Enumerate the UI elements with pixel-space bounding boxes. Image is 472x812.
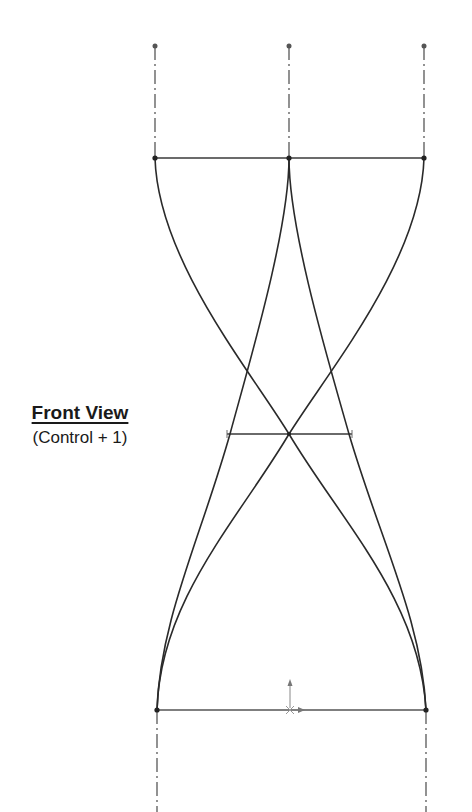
vertex-dot[interactable] (421, 155, 426, 160)
vertex-dot[interactable] (423, 707, 428, 712)
vertex-dot[interactable] (286, 155, 291, 160)
top-endpoints (153, 44, 427, 49)
origin-icon (286, 679, 305, 714)
endpoint-dot[interactable] (422, 44, 427, 49)
vertex-dot[interactable] (152, 155, 157, 160)
sketch-canvas[interactable] (0, 0, 472, 812)
endpoint-dot[interactable] (153, 44, 158, 49)
vertex-dot[interactable] (287, 432, 291, 436)
vertices (152, 155, 428, 712)
endpoint-dot[interactable] (287, 44, 292, 49)
vertex-dot[interactable] (154, 707, 159, 712)
